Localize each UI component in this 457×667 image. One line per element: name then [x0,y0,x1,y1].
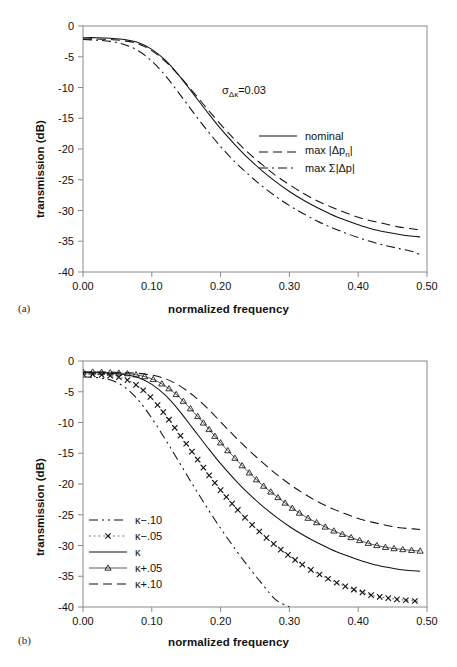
y-tick-label: -35 [58,570,74,582]
legend-item: κ+.10 [88,576,162,592]
legend-item: nominal [258,128,355,144]
y-tick-label: -25 [58,509,74,521]
legend-b: κ−.10κ−.05κκ+.05κ+.10 [88,512,162,592]
x-tick-label: 0.20 [210,615,231,627]
x-axis-title-b: normalized frequency [0,636,457,648]
x-tick-label: 0.40 [347,280,368,292]
x-tick-label: 0.50 [416,280,437,292]
legend-key-glyph [258,146,298,158]
marker-triangle [150,376,156,381]
marker-cross [334,580,339,585]
legend-key [88,578,128,590]
figure-panel-a: (a) normalized frequency transmission (d… [0,0,457,334]
sigma-subscript: Δκ [229,90,238,99]
y-tick-label: -10 [58,82,74,94]
series-line [83,40,420,255]
x-tick-label: 0.50 [416,615,437,627]
marker-cross [368,592,373,597]
x-axis-title-a: normalized frequency [0,303,457,315]
y-tick-label: -25 [58,174,74,186]
legend-a: nominalmax |Δpn|max Σ|Δp| [258,128,355,176]
marker-cross [184,441,189,446]
marker-cross [218,487,223,492]
plot-frame [83,26,427,272]
marker-cross [155,402,160,407]
legend-key [88,546,128,558]
legend-label: κ+.05 [135,562,162,574]
y-tick-label: -20 [58,478,74,490]
y-tick-label: -35 [58,235,74,247]
marker-cross [235,507,240,512]
marker-cross [351,587,356,592]
marker-cross [317,572,322,577]
legend-item: κ+.05 [88,560,162,576]
legend-item: κ−.10 [88,512,162,528]
legend-key [88,562,128,574]
marker-cross [360,590,365,595]
marker-triangle [314,519,320,524]
legend-label: κ−.05 [135,530,162,542]
marker-triangle [305,515,311,520]
y-axis-title-b: transmission (dB) [34,458,46,556]
marker-cross [325,576,330,581]
marker-cross [141,388,146,393]
marker-cross [229,501,234,506]
marker-cross [257,529,262,534]
y-tick-label: -40 [58,266,74,278]
y-tick-label: -5 [64,386,74,398]
marker-triangle [289,505,295,510]
y-tick-label: 0 [68,20,74,32]
legend-item: κ−.05 [88,528,162,544]
series-line [83,38,420,237]
y-axis-title-a: transmission (dB) [34,120,46,218]
legend-key-glyph [258,130,298,142]
marker-cross [386,595,391,600]
y-tick-label: -40 [58,601,74,613]
marker-triangle [173,391,179,396]
marker-cross [125,377,130,382]
sigma-symbol: σ [222,84,229,96]
legend-key-glyph [88,530,128,542]
legend-key [258,146,298,158]
marker-cross [148,394,153,399]
legend-key-glyph [88,546,128,558]
legend-item: max |Δpn| [258,144,355,160]
y-tick-label: -15 [58,447,74,459]
marker-triangle [331,528,337,533]
marker-cross [264,535,269,540]
marker-cross [166,417,171,422]
marker-cross [249,522,254,527]
marker-cross [224,494,229,499]
marker-cross [161,409,166,414]
y-tick-label: 0 [68,355,74,367]
x-tick-label: 0.00 [72,615,93,627]
marker-cross [292,557,297,562]
marker-triangle [268,489,274,494]
marker-cross [189,449,194,454]
x-tick-label: 0.30 [279,280,300,292]
marker-triangle [282,500,288,505]
legend-key-glyph [258,162,298,174]
marker-cross [300,562,305,567]
marker-cross [206,473,211,478]
legend-key [258,162,298,174]
legend-key-glyph [88,562,128,574]
legend-item: κ [88,544,162,560]
sigma-value: =0.03 [238,84,266,96]
marker-triangle [296,510,302,515]
x-tick-label: 0.30 [279,615,300,627]
y-tick-label: -20 [58,143,74,155]
legend-label: max Σ|Δp| [305,162,355,174]
x-tick-label: 0.40 [347,615,368,627]
marker-cross [271,541,276,546]
marker-cross [178,433,183,438]
marker-triangle [275,494,281,499]
legend-label: κ [135,546,141,558]
marker-triangle [159,381,165,386]
marker-cross [343,584,348,589]
y-tick-label: -30 [58,205,74,217]
marker-cross [201,465,206,470]
legend-key-glyph [88,514,128,526]
marker-triangle [322,524,328,529]
marker-cross [195,457,200,462]
